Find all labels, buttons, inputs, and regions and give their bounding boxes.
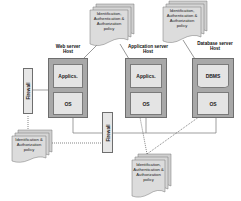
web-applics-label: Applics.: [58, 73, 77, 79]
app-os-label: OS: [142, 101, 149, 107]
policy-doc-web[interactable]: Identification, Authentication & Authori…: [90, 11, 128, 31]
database-server-host[interactable]: DBMS OS: [192, 58, 234, 118]
web-os-box[interactable]: OS: [53, 92, 83, 115]
firewall-2-label: Firewall: [105, 124, 110, 141]
web-host-label-line2: Host: [50, 49, 86, 54]
db-os-box[interactable]: OS: [197, 92, 229, 115]
policy-firewall-line3: policy: [12, 147, 46, 152]
app-applics-label: Applics.: [136, 73, 155, 79]
firewall-2[interactable]: Firewall: [102, 112, 113, 153]
web-server-host[interactable]: Applics. OS: [48, 58, 88, 118]
web-os-label: OS: [64, 101, 71, 107]
web-applics-box[interactable]: Applics.: [53, 64, 83, 88]
app-host-label-line2: Host: [128, 49, 168, 54]
firewall-1-label: Firewall: [26, 82, 31, 99]
policy-app-line4: policy: [132, 177, 165, 182]
app-host-label: Application server Host: [128, 44, 168, 54]
policy-db-line4: policy: [163, 23, 201, 28]
dbms-box[interactable]: DBMS: [197, 64, 229, 88]
db-os-label: OS: [209, 101, 216, 107]
db-host-label-line2: Host: [195, 46, 235, 51]
db-host-label: Database server Host: [195, 41, 235, 51]
app-os-box[interactable]: OS: [130, 92, 162, 115]
policy-doc-firewall[interactable]: Identification & Authorization policy: [12, 137, 46, 152]
policy-doc-app[interactable]: Identification, Authentication & Authori…: [132, 162, 165, 182]
policy-web-line4: policy: [90, 26, 128, 31]
policy-doc-db[interactable]: Identification, Authentication & Authori…: [163, 8, 201, 28]
firewall-1[interactable]: Firewall: [23, 68, 33, 114]
app-applics-box[interactable]: Applics.: [130, 64, 162, 88]
dbms-label: DBMS: [206, 73, 221, 79]
application-server-host[interactable]: Applics. OS: [125, 58, 167, 118]
web-host-label: Web server Host: [50, 44, 86, 54]
